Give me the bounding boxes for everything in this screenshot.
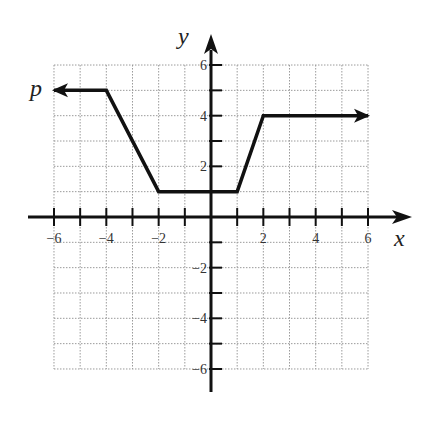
y-tick-label: 2 xyxy=(200,159,207,174)
y-tick-label: 4 xyxy=(200,109,207,124)
x-tick-label: −2 xyxy=(151,231,166,246)
x-tick-label: 4 xyxy=(312,231,319,246)
axes xyxy=(28,34,412,392)
x-tick-label: −6 xyxy=(47,231,62,246)
x-tick-label: −4 xyxy=(99,231,114,246)
x-tick-label: 6 xyxy=(365,231,372,246)
function-graph: −6−4−2246642−2−4−6 x y p xyxy=(0,0,424,421)
curve-label-p: p xyxy=(28,75,42,101)
x-tick-label: 2 xyxy=(260,231,267,246)
y-axis-label: y xyxy=(176,23,189,49)
y-tick-label: −4 xyxy=(192,311,207,326)
y-tick-label: −2 xyxy=(192,261,207,276)
x-axis-label: x xyxy=(393,225,405,251)
y-tick-label: 6 xyxy=(200,58,207,73)
y-tick-label: −6 xyxy=(192,362,207,377)
